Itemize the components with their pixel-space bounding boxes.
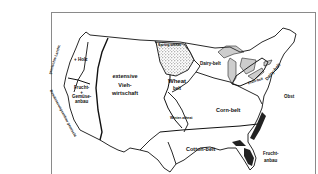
label-holz: + Holz <box>74 58 87 63</box>
lake-michigan <box>228 58 236 84</box>
label-wheat-belt: Wheat belt <box>168 78 186 92</box>
lake-ontario <box>264 60 272 66</box>
atlantic-coastal-strip <box>250 112 266 140</box>
label-frucht-east: Frucht- anbau <box>263 152 279 163</box>
label-dairy-belt-west: Dairy-belt <box>200 62 221 67</box>
label-frucht-west: Frucht- + Gemüse- anbau <box>72 86 91 104</box>
us-agriculture-map <box>0 0 318 174</box>
label-corn-belt: Corn-belt <box>216 108 240 114</box>
label-viehwirtschaft: extensive Vieh- wirtschaft <box>112 74 138 97</box>
label-winter-wheat: Winter-wheat <box>170 117 193 121</box>
label-spring-wheat: Spring-wheat <box>158 44 181 48</box>
label-cotton-belt: Cotton-belt <box>186 147 215 153</box>
label-obst: Obst <box>284 95 294 100</box>
